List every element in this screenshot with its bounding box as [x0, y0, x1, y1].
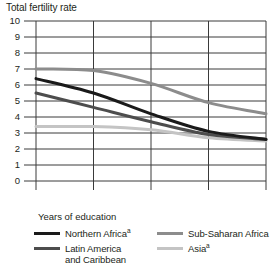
page-title: Total fertility rate [6, 2, 77, 13]
legend-label-asia: Asiaa [188, 243, 210, 254]
legend-label-sub-saharan-africa: Sub-Saharan Africa [188, 228, 269, 239]
y-axis-tick-label: 7 [15, 63, 20, 74]
y-axis-tick-label: 5 [15, 95, 20, 106]
plot-area: 012345678910 01-34-67-910+ [0, 16, 270, 192]
y-axis-tick-label: 4 [15, 111, 20, 122]
grid-lines [24, 21, 266, 190]
legend-item-latin-america[interactable]: Latin America and Caribbean [34, 243, 126, 265]
legend-item-asia[interactable]: Asiaa [157, 243, 210, 254]
footnote-marker: a [206, 242, 210, 249]
legend-swatch-sub-saharan-africa [157, 232, 183, 235]
line-chart-svg: 012345678910 01-34-67-910+ [0, 16, 270, 192]
y-axis-tick-label: 0 [15, 175, 20, 186]
y-axis-tick-labels: 012345678910 [9, 16, 20, 186]
footnote-marker: a [127, 227, 131, 234]
legend-item-sub-saharan-africa[interactable]: Sub-Saharan Africa [157, 228, 269, 239]
legend-label-northern-africa: Northern Africaa [65, 228, 130, 239]
legend: Northern Africaa Latin America and Carib… [34, 228, 270, 274]
y-axis-tick-label: 3 [15, 127, 20, 138]
chart-page: Total fertility rate 012345678910 01-34-… [0, 0, 270, 276]
y-axis-tick-label: 6 [15, 79, 20, 90]
y-axis-tick-label: 8 [15, 47, 20, 58]
legend-swatch-latin-america [34, 247, 60, 250]
x-axis-label: Years of education [38, 211, 116, 222]
y-axis-tick-label: 10 [9, 16, 20, 26]
legend-label-latin-america: Latin America and Caribbean [65, 243, 126, 265]
legend-swatch-northern-africa [34, 232, 60, 235]
legend-item-northern-africa[interactable]: Northern Africaa [34, 228, 130, 239]
legend-swatch-asia [157, 247, 183, 250]
y-axis-tick-label: 1 [15, 159, 20, 170]
y-axis-tick-label: 9 [15, 31, 20, 42]
y-axis-tick-label: 2 [15, 143, 20, 154]
